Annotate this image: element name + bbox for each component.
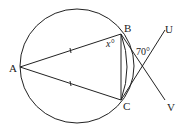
- label-b: B: [124, 22, 131, 34]
- label-a: A: [9, 62, 17, 74]
- tick-mark-ac: [70, 81, 71, 86]
- label-u: U: [165, 23, 173, 35]
- circle: [20, 9, 134, 123]
- label-c: C: [123, 100, 130, 112]
- geometry-diagram: A B C U V x° 70°: [0, 0, 184, 125]
- angle-x-label: x°: [105, 38, 114, 49]
- angle-70-label: 70°: [136, 46, 150, 57]
- tick-mark-ab: [70, 48, 71, 53]
- label-v: V: [167, 101, 175, 113]
- arc-bc: [121, 34, 127, 100]
